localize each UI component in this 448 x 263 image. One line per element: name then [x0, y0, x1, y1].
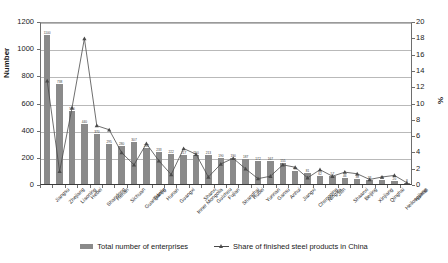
y2-tick-label: 2: [416, 165, 420, 173]
x-axis-label: Sichuan: [129, 187, 146, 204]
chart-legend: Total number of enterprises Share of fin…: [0, 242, 448, 251]
legend-item-bar: Total number of enterprises: [80, 242, 188, 251]
y2-tick-label: 16: [416, 51, 424, 59]
x-tick-mark: [375, 185, 376, 188]
y-tick-mark: [37, 49, 40, 50]
x-tick-mark: [300, 185, 301, 188]
y2-tick-mark: [412, 71, 415, 72]
x-tick-mark: [102, 185, 103, 188]
legend-label-bar: Total number of enterprises: [97, 242, 188, 251]
y2-tick-mark: [412, 104, 415, 105]
y-tick-label: 800: [21, 72, 34, 80]
y2-tick-label: 6: [416, 132, 420, 140]
y-tick-label: 1200: [17, 18, 34, 26]
x-tick-mark: [127, 185, 128, 188]
y2-tick-label: 18: [416, 34, 424, 42]
y2-tick-label: 4: [416, 148, 420, 156]
y-tick-mark: [37, 104, 40, 105]
line-marker: [405, 181, 409, 185]
x-tick-mark: [251, 185, 252, 188]
y2-tick-mark: [412, 120, 415, 121]
x-tick-mark: [325, 185, 326, 188]
plot-area: 1100738540440370295280307264233222217210…: [40, 22, 412, 185]
line-marker-icon: [214, 243, 229, 250]
x-tick-mark: [288, 185, 289, 188]
y-tick-mark: [37, 76, 40, 77]
secondary-y-axis-title: %: [436, 97, 445, 104]
x-tick-mark: [152, 185, 153, 188]
x-tick-mark: [176, 185, 177, 188]
y-tick-mark: [37, 158, 40, 159]
line-marker: [144, 142, 148, 146]
y2-tick-label: 10: [416, 100, 424, 108]
x-tick-mark: [139, 185, 140, 188]
y2-tick-label: 12: [416, 83, 424, 91]
x-axis-label: Guangxi: [179, 187, 196, 204]
x-axis-label: Anhui: [289, 187, 302, 200]
x-tick-mark: [387, 185, 388, 188]
x-tick-mark: [90, 185, 91, 188]
y-axis-title: Number: [2, 48, 11, 78]
x-tick-mark: [214, 185, 215, 188]
line-marker: [281, 163, 285, 167]
line-marker: [231, 156, 235, 160]
x-tick-mark: [77, 185, 78, 188]
line-marker: [219, 162, 223, 166]
x-axis-label: Hainan: [414, 187, 429, 202]
line-marker: [318, 168, 322, 172]
x-tick-mark: [40, 185, 41, 188]
line-marker: [58, 169, 62, 173]
x-tick-mark: [238, 185, 239, 188]
x-axis-label: Jiangxi: [302, 187, 317, 202]
line-path: [47, 38, 407, 182]
y2-tick-mark: [412, 169, 415, 170]
line-marker: [120, 150, 124, 154]
x-axis-label: Tianjin: [153, 187, 167, 201]
y2-tick-mark: [412, 185, 415, 186]
x-tick-mark: [65, 185, 66, 188]
y2-tick-mark: [412, 87, 415, 88]
y2-tick-mark: [412, 38, 415, 39]
bar-swatch-icon: [80, 244, 93, 249]
y-tick-mark: [37, 22, 40, 23]
combo-chart: Number % 1100738540440370295280307264233…: [0, 0, 448, 263]
x-tick-mark: [114, 185, 115, 188]
y2-tick-mark: [412, 152, 415, 153]
x-tick-mark: [313, 185, 314, 188]
line-series: [41, 23, 413, 186]
legend-item-line: Share of finished steel products in Chin…: [214, 242, 368, 251]
line-marker: [70, 106, 74, 110]
x-tick-mark: [226, 185, 227, 188]
x-tick-mark: [201, 185, 202, 188]
y2-tick-label: 0: [416, 181, 420, 189]
y-tick-label: 0: [30, 181, 34, 189]
x-tick-mark: [52, 185, 53, 188]
y-tick-label: 200: [21, 154, 34, 162]
legend-label-line: Share of finished steel products in Chin…: [233, 242, 368, 251]
y2-tick-label: 20: [416, 18, 424, 26]
y-tick-mark: [37, 131, 40, 132]
line-marker: [194, 152, 198, 156]
y-tick-label: 600: [21, 100, 34, 108]
y2-tick-mark: [412, 136, 415, 137]
y2-tick-mark: [412, 22, 415, 23]
y-tick-label: 1000: [17, 45, 34, 53]
y-tick-label: 400: [21, 127, 34, 135]
line-marker: [45, 79, 49, 83]
y2-tick-label: 8: [416, 116, 420, 124]
line-marker: [82, 36, 86, 40]
x-tick-mark: [263, 185, 264, 188]
line-marker: [182, 146, 186, 150]
x-tick-mark: [189, 185, 190, 188]
y2-tick-label: 14: [416, 67, 424, 75]
x-tick-mark: [164, 185, 165, 188]
x-axis-label: Jilin: [337, 187, 347, 197]
line-marker: [95, 124, 99, 128]
x-tick-mark: [276, 185, 277, 188]
x-tick-mark: [362, 185, 363, 188]
y2-tick-mark: [412, 55, 415, 56]
x-tick-mark: [338, 185, 339, 188]
x-tick-mark: [400, 185, 401, 188]
x-tick-mark: [350, 185, 351, 188]
